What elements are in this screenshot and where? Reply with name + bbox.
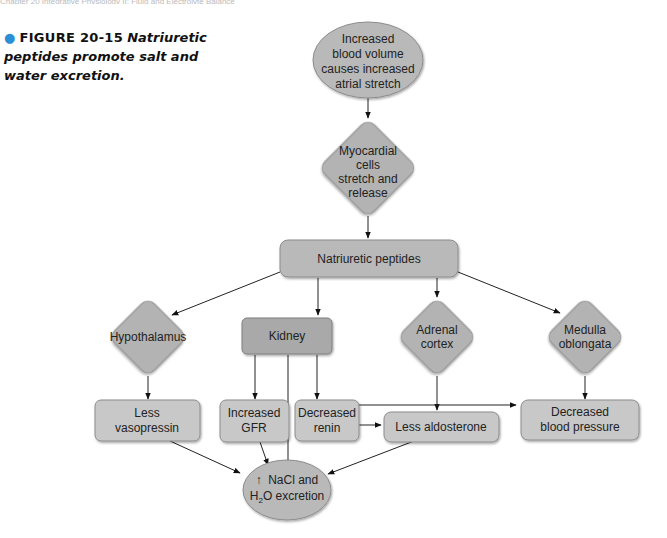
medulla-line-2: oblongata: [559, 337, 612, 351]
arrow-vasopressin-to-excretion: [170, 441, 240, 473]
node-stimulus: Increased blood volume causes increased …: [313, 22, 423, 98]
node-myocardial-cells: Myocardial cells stretch and release: [319, 119, 418, 218]
node-adrenal-cortex: Adrenal cortex: [397, 297, 476, 376]
stimulus-line-3: causes increased: [321, 62, 414, 76]
node-less-vasopressin: Less vasopressin: [95, 400, 200, 441]
increase-arrow-icon: ↑: [256, 473, 262, 487]
node-increased-gfr: Increased GFR: [220, 400, 289, 442]
kidney-label: Kidney: [269, 329, 306, 343]
gfr-line-1: Increased: [228, 406, 281, 420]
arrow-aldosterone-to-excretion: [328, 441, 414, 474]
medulla-line-1: Medulla: [564, 323, 606, 337]
bp-line-2: blood pressure: [540, 420, 620, 434]
peptides-label: Natriuretic peptides: [317, 252, 420, 266]
stimulus-line-1: Increased: [342, 32, 395, 46]
myocardial-line-3: stretch and: [338, 172, 397, 186]
arrow-peptides-to-medulla: [458, 272, 560, 313]
myocardial-line-2: cells: [356, 158, 380, 172]
aldosterone-label: Less aldosterone: [395, 420, 487, 434]
node-less-aldosterone: Less aldosterone: [384, 412, 499, 442]
node-nacl-h2o-excretion: ↑ NaCl and H2O excretion: [243, 460, 331, 520]
node-decreased-renin: Decreased renin: [295, 400, 359, 441]
myocardial-line-1: Myocardial: [339, 144, 397, 158]
hypothalamus-label: Hypothalamus: [110, 330, 187, 344]
stimulus-line-4: atrial stretch: [335, 77, 400, 91]
node-hypothalamus: Hypothalamus: [108, 297, 187, 376]
renin-line-2: renin: [314, 421, 341, 435]
renin-line-1: Decreased: [298, 406, 356, 420]
bp-line-1: Decreased: [551, 405, 609, 419]
node-natriuretic-peptides: Natriuretic peptides: [280, 240, 458, 277]
stimulus-line-2: blood volume: [332, 47, 404, 61]
vasopressin-line-2: vasopressin: [115, 421, 179, 435]
vasopressin-line-1: Less: [134, 406, 159, 420]
flowchart: Increased blood volume causes increased …: [0, 0, 667, 538]
arrow-peptides-to-hypothalamus: [172, 272, 280, 315]
gfr-line-2: GFR: [241, 421, 267, 435]
arrow-gfr-to-excretion: [260, 442, 268, 465]
node-kidney: Kidney: [242, 318, 332, 354]
adrenal-line-1: Adrenal: [416, 323, 457, 337]
myocardial-line-4: release: [348, 186, 388, 200]
adrenal-line-2: cortex: [421, 337, 454, 351]
node-decreased-blood-pressure: Decreased blood pressure: [521, 400, 639, 440]
node-medulla-oblongata: Medulla oblongata: [545, 297, 624, 376]
